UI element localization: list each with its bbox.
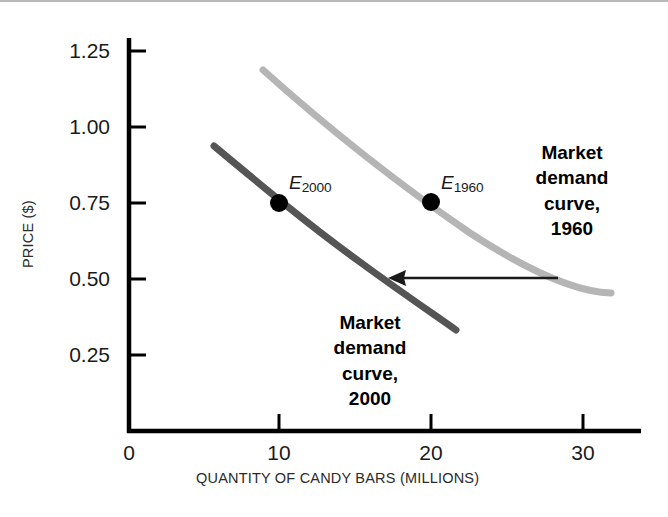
curve-label-2000: Market demand curve, 2000 xyxy=(295,310,445,411)
y-tick-label-0-50: 0.50 xyxy=(24,267,110,291)
x-tick-label-30: 30 xyxy=(558,441,608,465)
x-tick-label-10: 10 xyxy=(254,441,304,465)
x-axis-title: QUANTITY OF CANDY BARS (MILLIONS) xyxy=(196,470,479,486)
y-tick-label-0-25: 0.25 xyxy=(24,343,110,367)
equilibrium-label-e1960-main: E xyxy=(441,172,454,193)
equilibrium-label-e2000-main: E xyxy=(289,172,302,193)
x-tick-label-0: 0 xyxy=(104,441,154,465)
plot-canvas xyxy=(0,0,668,517)
demand-shift-figure: · · · · · · · · · · xyxy=(0,0,668,517)
demand-curve-2000 xyxy=(214,146,456,330)
x-tick-label-20: 20 xyxy=(406,441,456,465)
equilibrium-label-e2000-sub: 2000 xyxy=(302,180,332,195)
y-tick-label-1-25: 1.25 xyxy=(24,39,110,63)
y-tick-label-1-00: 1.00 xyxy=(24,115,110,139)
y-axis-title: PRICE ($) xyxy=(20,200,36,268)
equilibrium-point-e1960 xyxy=(422,193,440,211)
equilibrium-label-e2000: E2000 xyxy=(289,172,331,194)
curve-label-1960: Market demand curve, 1960 xyxy=(497,140,647,241)
equilibrium-label-e1960: E1960 xyxy=(441,172,483,194)
equilibrium-label-e1960-sub: 1960 xyxy=(454,180,484,195)
equilibrium-point-e2000 xyxy=(270,194,288,212)
y-axis-ticks xyxy=(129,51,146,355)
y-tick-label-0-75: 0.75 xyxy=(24,191,110,215)
x-axis-ticks xyxy=(279,414,583,431)
